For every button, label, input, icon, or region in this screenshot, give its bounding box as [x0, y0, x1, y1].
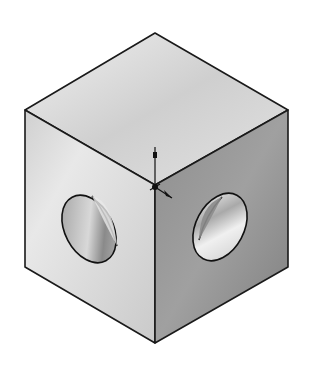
cad-viewport[interactable]: [0, 0, 310, 370]
cube-model[interactable]: [0, 0, 310, 370]
